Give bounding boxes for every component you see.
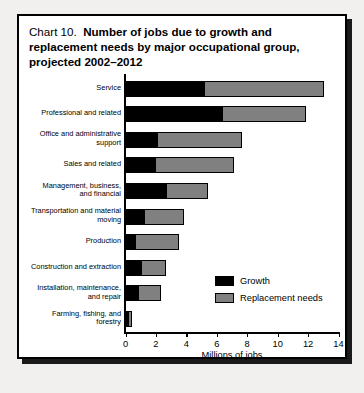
bar-segment-replacement[interactable] [144,210,182,224]
bar-row: Service [19,77,345,103]
bar-category-label: Transportation and materialmoving [9,207,121,224]
x-axis-tick [217,332,218,337]
bar-row: Professional and related [19,102,345,128]
x-axis-title: Millions of jobs [124,350,340,360]
bar-segment-growth[interactable] [127,210,145,224]
bar-segment-growth[interactable] [127,107,222,121]
bar-segment-replacement[interactable] [128,312,131,326]
x-axis-tick [308,332,309,337]
stacked-bar[interactable] [126,81,324,97]
bar-row: Production [19,230,345,256]
bar-category-label: Service [9,84,121,93]
bar-category-label: Management, business,and financial [9,182,121,199]
bar-category-label: Office and administrativesupport [9,130,121,147]
bar-row: Farming, fishing, andforestry [19,307,345,333]
bar-row: Sales and related [19,153,345,179]
bar-row: Transportation and materialmoving [19,205,345,231]
bar-segment-growth[interactable] [127,235,136,249]
stacked-bar[interactable] [126,209,184,225]
bar-category-label-line: Construction and extraction [9,263,121,272]
x-axis-tick-label: 6 [205,339,229,349]
x-axis-tick-label: 4 [174,339,198,349]
stacked-bar[interactable] [126,260,166,276]
bar-track [126,132,242,146]
bar-track [126,285,161,299]
x-axis-tick [156,332,157,337]
bar-segment-replacement[interactable] [138,286,160,300]
bar-category-label-line: support [9,139,121,148]
bar-category-label: Sales and related [9,160,121,169]
bar-category-label-line: and financial [9,190,121,199]
stacked-bar[interactable] [126,132,242,148]
legend-item[interactable]: Growth [215,274,323,288]
bar-category-label-line: and repair [9,293,121,302]
bar-category-label: Construction and extraction [9,263,121,272]
bar-track [126,81,324,95]
bar-track [126,157,235,171]
bar-segment-growth[interactable] [127,261,142,275]
stacked-bar[interactable] [126,183,209,199]
chart-legend: GrowthReplacement needs [215,274,323,308]
x-axis-tick [186,332,187,337]
bar-category-label: Farming, fishing, andforestry [9,310,121,327]
x-axis-tick-label: 14 [327,339,351,349]
x-axis-tick-label: 12 [296,339,320,349]
chart-figure: Chart 10. Number of jobs due to growth a… [17,14,347,359]
bar-category-label-line: forestry [9,318,121,327]
bar-track [126,234,180,248]
bar-segment-replacement[interactable] [204,82,323,96]
x-axis-tick-label: 0 [114,339,138,349]
bar-segment-growth[interactable] [127,184,166,198]
x-axis-tick-label: 8 [235,339,259,349]
bar-track [126,260,166,274]
bar-track [126,106,306,120]
bar-segment-growth[interactable] [127,286,139,300]
bar-category-label-line: Professional and related [9,109,121,118]
figure-shadow-right [347,19,352,364]
x-axis-tick [278,332,279,337]
bar-category-label-line: moving [9,216,121,225]
bar-row: Management, business,and financial [19,179,345,205]
bar-category-label: Installation, maintenance,and repair [9,284,121,301]
bar-segment-replacement[interactable] [135,235,178,249]
x-axis-tick [247,332,248,337]
stacked-bar[interactable] [126,285,161,301]
plot-area: ServiceProfessional and relatedOffice an… [19,16,345,357]
x-axis-tick [339,332,340,337]
stacked-bar[interactable] [126,106,306,122]
stacked-bar[interactable] [126,157,235,173]
stacked-bar[interactable] [126,311,133,327]
bar-segment-replacement[interactable] [222,107,305,121]
bar-segment-replacement[interactable] [166,184,208,198]
x-axis-tick-label: 2 [144,339,168,349]
bar-row: Office and administrativesupport [19,128,345,154]
legend-swatch [215,293,234,303]
bar-segment-replacement[interactable] [157,133,241,147]
bar-segment-replacement[interactable] [141,261,164,275]
bar-segment-replacement[interactable] [155,158,233,172]
stacked-bar[interactable] [126,234,180,250]
bar-segment-growth[interactable] [127,82,204,96]
x-axis-tick [126,332,127,337]
bar-segment-growth[interactable] [127,133,157,147]
legend-label: Replacement needs [240,293,323,303]
bar-category-label-line: Service [9,84,121,93]
bar-category-label: Professional and related [9,109,121,118]
bar-category-label: Production [9,237,121,246]
bar-track [126,183,209,197]
legend-label: Growth [240,276,270,286]
legend-swatch [215,276,234,286]
x-axis-tick-label: 10 [266,339,290,349]
bar-category-label-line: Sales and related [9,160,121,169]
legend-item[interactable]: Replacement needs [215,291,323,305]
bar-track [126,311,133,325]
bar-track [126,209,184,223]
bar-category-label-line: Production [9,237,121,246]
bar-segment-growth[interactable] [127,158,156,172]
